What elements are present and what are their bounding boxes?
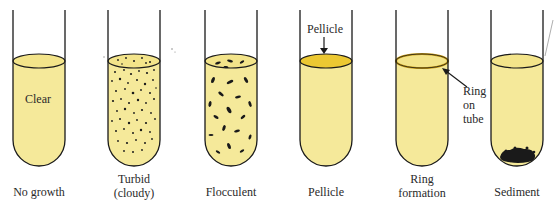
pellicle-layer [300,54,352,68]
ring-callout-line2: on [463,98,475,112]
pellicle-callout: Pellicle [307,22,343,36]
ring-callout-line1: Ring [463,84,486,98]
stray-line [545,20,553,56]
clear-label: Clear [25,92,51,106]
caption-flocculent: Flocculent [191,185,271,199]
tube-turbid [108,10,160,166]
caption-turbid-line2: (cloudy) [94,186,174,200]
tube-no-growth [13,10,65,166]
caption-no-growth: No growth [0,185,78,199]
tube-flocculent [205,10,257,166]
caption-ring-line1: Ring [382,172,462,186]
tube-sediment [491,10,553,166]
caption-pellicle: Pellicle [286,185,366,199]
caption-sediment: Sediment [477,185,557,199]
ring-callout-line3: tube [463,112,484,126]
caption-ring-line2: formation [382,186,462,200]
caption-turbid-line1: Turbid [94,172,174,186]
tube-ring [396,10,467,166]
